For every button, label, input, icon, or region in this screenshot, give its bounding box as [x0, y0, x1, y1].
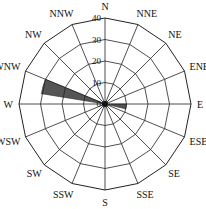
- direction-label-nnw: NNW: [50, 8, 74, 19]
- direction-label-ssw: SSW: [53, 189, 74, 200]
- direction-label-e: E: [197, 99, 203, 110]
- radial-tick-label: 30: [92, 35, 102, 45]
- direction-label-w: W: [4, 99, 14, 110]
- direction-label-wnw: WNW: [0, 61, 21, 72]
- direction-label-sse: SSE: [137, 189, 154, 200]
- radial-ticks: 010203040: [92, 13, 102, 109]
- direction-label-se: SE: [168, 168, 180, 179]
- radial-tick-label: 40: [92, 13, 102, 23]
- direction-label-s: S: [102, 197, 108, 208]
- direction-label-ne: NE: [168, 29, 181, 40]
- direction-label-nw: NW: [25, 29, 42, 40]
- radial-tick-label: 0: [97, 99, 102, 109]
- direction-label-wsw: WSW: [0, 136, 21, 147]
- radial-tick-label: 10: [92, 78, 102, 88]
- direction-label-nne: NNE: [137, 8, 158, 19]
- direction-label-n: N: [101, 1, 108, 12]
- wind-rose-chart: 010203040NNNENEENEEESESESSESSSWSWWSWWWNW…: [0, 0, 206, 209]
- direction-label-sw: SW: [27, 168, 43, 179]
- direction-label-ene: ENE: [190, 61, 206, 72]
- direction-label-ese: ESE: [190, 136, 206, 147]
- center-dot: [102, 101, 108, 107]
- radial-tick-label: 20: [92, 56, 102, 66]
